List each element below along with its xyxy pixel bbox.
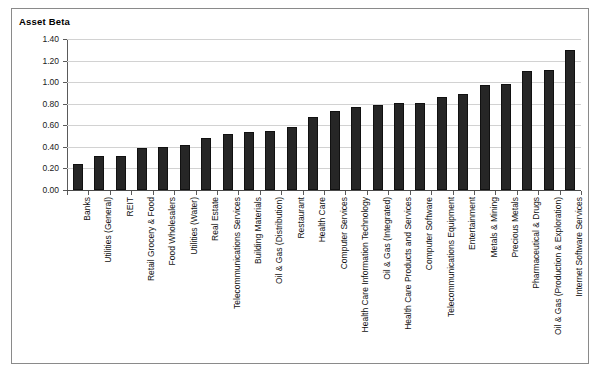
x-axis-tick <box>67 191 68 195</box>
x-axis-category-label: Restaurant <box>296 197 306 239</box>
x-axis-category-label: Computer Software <box>424 197 434 270</box>
bar-series <box>67 39 581 190</box>
x-axis-tick <box>303 191 304 195</box>
x-axis-tick <box>367 191 368 195</box>
bar <box>94 156 104 191</box>
bar <box>73 164 83 190</box>
y-axis-tick-label: 1.20 <box>29 57 59 66</box>
chart-figure: Asset Beta 0.000.200.400.600.801.001.201… <box>0 0 601 375</box>
y-axis-labels: 0.000.200.400.600.801.001.201.40 <box>27 0 59 375</box>
x-axis-tick <box>431 191 432 195</box>
y-axis-tick-label: 0.00 <box>29 186 59 195</box>
x-axis-category-label: Internet Software Services <box>574 197 584 297</box>
bar <box>330 111 340 190</box>
bar <box>458 94 468 190</box>
x-axis-tick <box>217 191 218 195</box>
bar <box>415 103 425 190</box>
x-axis-tick <box>581 191 582 195</box>
x-axis-tick <box>388 191 389 195</box>
x-axis-category-label: Telecommunications Equipment <box>446 197 456 317</box>
y-axis-tick <box>63 39 67 40</box>
bar <box>265 131 275 190</box>
bar <box>116 156 126 191</box>
bar <box>158 147 168 190</box>
x-axis-category-label: Oil & Gas (Production & Exploration) <box>553 197 563 335</box>
x-axis-category-label: Computer Services <box>339 197 349 269</box>
x-axis-category-label: REIT <box>125 197 135 216</box>
x-axis-category-label: Entertainment <box>467 197 477 250</box>
y-axis-tick-label: 1.00 <box>29 78 59 87</box>
x-axis-category-label: Pharmaceutical & Drugs <box>531 197 541 289</box>
x-axis-category-label: Metals & Mining <box>489 197 499 257</box>
plot-area <box>67 39 581 190</box>
x-axis-tick <box>174 191 175 195</box>
x-axis-category-label: Health Care Information Technology <box>360 197 370 332</box>
bar <box>565 50 575 190</box>
bar <box>437 97 447 190</box>
bar <box>180 145 190 190</box>
x-axis-tick <box>131 191 132 195</box>
x-axis-tick <box>196 191 197 195</box>
bar <box>480 85 490 190</box>
x-axis-category-label: Retail Grocery & Food <box>146 197 156 281</box>
x-axis-labels: BanksUtilities (General)REITRetail Groce… <box>67 197 581 372</box>
bar <box>308 117 318 190</box>
x-axis-category-label: Utilities (Water) <box>189 197 199 255</box>
x-axis-tick <box>410 191 411 195</box>
x-axis-category-label: Real Estate <box>210 197 220 241</box>
x-axis-tick <box>474 191 475 195</box>
x-axis-tick <box>324 191 325 195</box>
bar <box>223 134 233 190</box>
y-axis-tick <box>63 125 67 126</box>
x-axis-tick <box>110 191 111 195</box>
x-axis-tick <box>517 191 518 195</box>
y-axis-tick-label: 0.20 <box>29 164 59 173</box>
x-axis-category-label: Telecommunications Services <box>232 197 242 309</box>
x-axis-category-label: Building Materials <box>253 197 263 264</box>
y-axis-tick <box>63 61 67 62</box>
y-axis-tick-label: 0.40 <box>29 143 59 152</box>
x-axis-tick <box>495 191 496 195</box>
bar <box>522 71 532 190</box>
x-axis-tick <box>88 191 89 195</box>
y-axis-tick <box>63 147 67 148</box>
x-axis-category-label: Oil & Gas (Integrated) <box>382 197 392 280</box>
bar <box>544 70 554 190</box>
x-axis-tick <box>153 191 154 195</box>
bar <box>351 107 361 190</box>
y-axis-tick <box>63 82 67 83</box>
bar <box>244 132 254 190</box>
y-axis-tick-label: 0.80 <box>29 100 59 109</box>
bar <box>501 84 511 190</box>
x-axis-category-label: Health Care <box>317 197 327 242</box>
bar <box>137 148 147 190</box>
bar <box>201 138 211 190</box>
x-axis-category-label: Food Wholesalers <box>167 197 177 266</box>
bar <box>373 105 383 190</box>
x-axis-category-label: Health Care Products and Services <box>403 197 413 330</box>
bar <box>287 127 297 190</box>
x-axis-tick <box>345 191 346 195</box>
x-axis-category-label: Precious Metals <box>510 197 520 257</box>
x-axis-tick <box>260 191 261 195</box>
y-axis-tick <box>63 168 67 169</box>
x-axis-tick <box>238 191 239 195</box>
x-axis-category-label: Utilities (General) <box>103 197 113 263</box>
x-axis-category-label: Banks <box>82 197 92 221</box>
y-axis-tick-label: 1.40 <box>29 35 59 44</box>
bar <box>394 103 404 190</box>
x-axis-tick <box>560 191 561 195</box>
x-axis-tick <box>538 191 539 195</box>
x-axis-tick <box>281 191 282 195</box>
y-axis-tick-label: 0.60 <box>29 121 59 130</box>
x-axis-category-label: Oil & Gas (Distribution) <box>274 197 284 284</box>
y-axis-tick <box>63 104 67 105</box>
x-axis-tick <box>453 191 454 195</box>
